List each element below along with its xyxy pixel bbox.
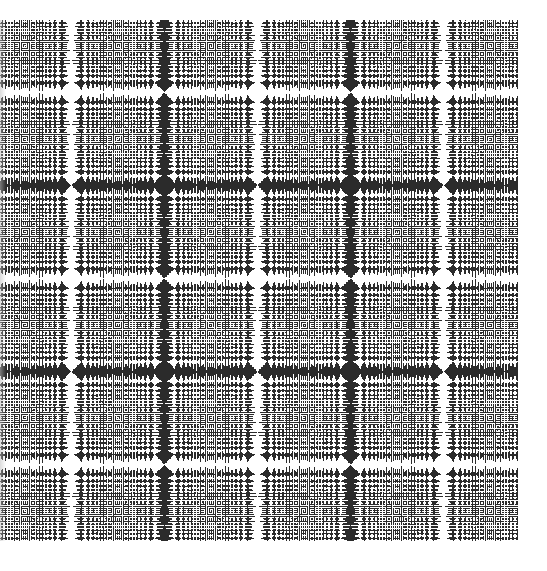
scan-edge-shadow: [0, 20, 6, 541]
moire-image: [0, 0, 547, 571]
moire-pattern: [0, 20, 518, 541]
